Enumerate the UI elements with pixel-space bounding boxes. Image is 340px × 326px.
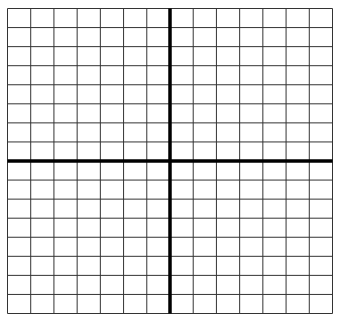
coordinate-grid [0, 0, 340, 326]
